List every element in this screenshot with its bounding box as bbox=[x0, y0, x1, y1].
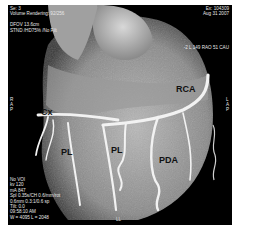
ct-volume-render-viewport: Se: 3 Volume Rendering: 92/256 DFOV 13.6… bbox=[8, 5, 232, 225]
label-right-coronary-artery: RCA bbox=[176, 84, 196, 94]
kv-value: kv 120 bbox=[10, 182, 24, 187]
left-orientation-markers: R A P bbox=[10, 97, 13, 112]
right-orientation-markers: L A P bbox=[226, 97, 229, 112]
voi-status: No VOI bbox=[10, 177, 25, 182]
dfov-value: DFOV 13.6cm bbox=[10, 22, 39, 27]
label-posterior-descending-artery: PDA bbox=[159, 155, 178, 165]
slice-params: 0.6mm 0.3:1/0.6 sp bbox=[10, 199, 49, 204]
label-posterolateral-branch-1: PL bbox=[61, 147, 73, 157]
overlay-top-left: Se: 3 Volume Rendering: 92/256 DFOV 13.6… bbox=[10, 6, 64, 33]
ma-value: mA 847 bbox=[10, 188, 26, 193]
label-circumflex-artery: Cx bbox=[41, 107, 53, 117]
recon-filter: STND /HD75% /No Filt bbox=[10, 28, 57, 33]
scan-params: Spl 0.35s/CH 0.6/mm/rot bbox=[10, 193, 60, 198]
scan-time: 09:58:10 AM bbox=[10, 209, 36, 214]
overlay-bottom-left: No VOI kv 120 mA 847 Spl 0.35s/CH 0.6/mm… bbox=[10, 177, 60, 220]
window-level: W = 4095 L = 2048 bbox=[10, 215, 49, 220]
view-orientation: -2 L 149 RAO 51 CAU bbox=[184, 45, 229, 50]
volume-rendering-info: Volume Rendering: 92/256 bbox=[10, 11, 64, 16]
overlay-top-right: Ex: 104309 Aug 31 2007 bbox=[203, 6, 229, 17]
series-number: Se: 3 bbox=[10, 6, 21, 11]
label-posterolateral-branch-2: PL bbox=[111, 145, 123, 155]
exam-number: Ex: 104309 bbox=[206, 6, 229, 11]
exam-date: Aug 31 2007 bbox=[203, 11, 229, 16]
tilt-value: Tilt: 0.0 bbox=[10, 204, 25, 209]
bottom-orientation-marker: LL bbox=[116, 217, 121, 222]
